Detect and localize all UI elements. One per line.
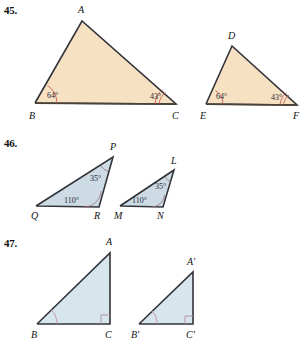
triangle-def: 64° 43° D E F bbox=[199, 30, 300, 121]
vertex-label-m: M bbox=[113, 210, 123, 221]
vertex-label-c-prime: C' bbox=[186, 329, 196, 340]
problem-47: 47. A B C A' B' bbox=[0, 233, 303, 349]
angle-label-c: 43° bbox=[150, 92, 161, 101]
vertex-label-a: A bbox=[105, 236, 113, 247]
vertex-label-a-prime: A' bbox=[186, 256, 196, 267]
problem-47-figures: A B C A' B' C' bbox=[0, 233, 303, 349]
vertex-label-f: F bbox=[292, 110, 300, 121]
problem-45-figures: 64° 43° A B C 64° 43° D E F bbox=[0, 0, 303, 133]
angle-label-n: 110° bbox=[132, 196, 147, 205]
angle-label-f: 43° bbox=[271, 93, 282, 102]
angle-label-l: 35° bbox=[155, 182, 166, 191]
vertex-label-p: P bbox=[109, 141, 116, 152]
vertex-label-b-prime: B' bbox=[131, 329, 140, 340]
vertex-label-l: L bbox=[170, 155, 177, 166]
figure-page: 45. 64° 43° A B C bbox=[0, 0, 303, 349]
vertex-label-b: B bbox=[29, 110, 35, 121]
vertex-label-e: E bbox=[199, 110, 206, 121]
problem-46-figures: 35° 110° P Q R 35° 110° L M N bbox=[0, 133, 303, 233]
angle-label-p: 35° bbox=[90, 174, 101, 183]
angle-label-e: 64° bbox=[216, 92, 227, 101]
vertex-label-d: D bbox=[227, 30, 236, 41]
vertex-label-b: B bbox=[31, 329, 37, 340]
angle-label-b: 64° bbox=[47, 91, 58, 100]
vertex-label-r: R bbox=[93, 210, 100, 221]
triangle-lmn: 35° 110° L M N bbox=[113, 155, 177, 221]
problem-45: 45. 64° 43° A B C bbox=[0, 0, 303, 133]
vertex-label-c: C bbox=[172, 110, 179, 121]
triangle-abc-prime-right: A' B' C' bbox=[131, 256, 196, 340]
triangle-pqr: 35° 110° P Q R bbox=[31, 141, 116, 221]
triangle-abc-right: A B C bbox=[31, 236, 113, 340]
vertex-label-q: Q bbox=[31, 210, 39, 221]
vertex-label-c: C bbox=[105, 329, 112, 340]
triangle-abc: 64° 43° A B C bbox=[29, 4, 179, 121]
vertex-label-n: N bbox=[156, 210, 165, 221]
angle-label-r: 110° bbox=[64, 196, 79, 205]
problem-46: 46. 35° 110° P Q R bbox=[0, 133, 303, 233]
vertex-label-a: A bbox=[77, 4, 85, 15]
